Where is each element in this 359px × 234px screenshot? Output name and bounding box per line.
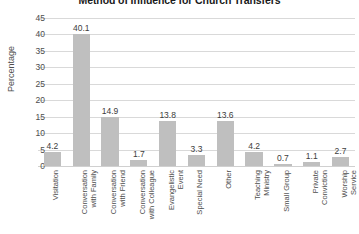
x-axis-tick-slot: Private Conviction — [297, 168, 326, 234]
x-axis-tick-slot: Teaching Ministry — [240, 168, 269, 234]
bar-value-label: 13.6 — [211, 111, 240, 120]
gridline — [38, 166, 355, 167]
bar[interactable] — [101, 117, 118, 166]
y-axis-title: Percentage — [6, 34, 16, 104]
bar-value-label: 13.8 — [153, 111, 182, 120]
bar-slot: 1.7 — [124, 18, 153, 166]
bar-value-label: 0.7 — [269, 154, 298, 163]
bar-value-label: 4.2 — [240, 142, 269, 151]
x-axis-tick-label: Visitation — [52, 168, 61, 232]
bar-value-label: 14.9 — [96, 107, 125, 116]
bar-value-label: 1.7 — [124, 150, 153, 159]
bar[interactable] — [159, 121, 176, 166]
bar-slot: 14.9 — [96, 18, 125, 166]
bar-slot: 4.2 — [240, 18, 269, 166]
x-axis-tick-slot: Conversation with Friend — [96, 168, 125, 234]
bar[interactable] — [130, 160, 147, 166]
x-axis-tick-label: Other — [225, 168, 234, 232]
bar[interactable] — [217, 121, 234, 166]
bar[interactable] — [332, 157, 349, 166]
x-axis-tick-labels: VisitationConversation with FamilyConver… — [38, 168, 355, 234]
x-axis-tick-slot: Conversation with Colleague — [124, 168, 153, 234]
x-axis-tick-slot: Small Group — [269, 168, 298, 234]
x-axis-tick-label: Special Need — [196, 168, 205, 232]
bar-slot: 1.1 — [297, 18, 326, 166]
bars-group: 4.240.114.91.713.83.313.64.20.71.12.7 — [38, 18, 355, 166]
bar-slot: 40.1 — [67, 18, 96, 166]
bar[interactable] — [44, 152, 61, 166]
x-axis-tick-slot: Worship Service — [326, 168, 355, 234]
bar-slot: 13.6 — [211, 18, 240, 166]
bar-slot: 2.7 — [326, 18, 355, 166]
bar-value-label: 40.1 — [67, 24, 96, 33]
bar-value-label: 2.7 — [326, 147, 355, 156]
bar-slot: 3.3 — [182, 18, 211, 166]
bar-chart-figure: Method of Influence for Church Transfers… — [0, 0, 359, 234]
bar[interactable] — [245, 152, 262, 166]
x-axis-tick-label: Worship Service — [341, 168, 358, 232]
bar[interactable] — [303, 162, 320, 166]
x-axis-tick-slot: Other — [211, 168, 240, 234]
bar[interactable] — [274, 164, 291, 166]
x-axis-tick-slot: Special Need — [182, 168, 211, 234]
x-axis-tick-slot: Visitation — [38, 168, 67, 234]
bar[interactable] — [73, 34, 90, 166]
bar-value-label: 4.2 — [38, 142, 67, 151]
bar-value-label: 3.3 — [182, 145, 211, 154]
x-axis-tick-label: Small Group — [283, 168, 292, 232]
bar-slot: 13.8 — [153, 18, 182, 166]
x-axis-tick-slot: Evangelistic Event — [153, 168, 182, 234]
bar-value-label: 1.1 — [297, 152, 326, 161]
chart-title: Method of Influence for Church Transfers — [0, 0, 359, 6]
bar[interactable] — [188, 155, 205, 166]
bar-slot: 4.2 — [38, 18, 67, 166]
x-axis-tick-slot: Conversation with Family — [67, 168, 96, 234]
bar-slot: 0.7 — [269, 18, 298, 166]
